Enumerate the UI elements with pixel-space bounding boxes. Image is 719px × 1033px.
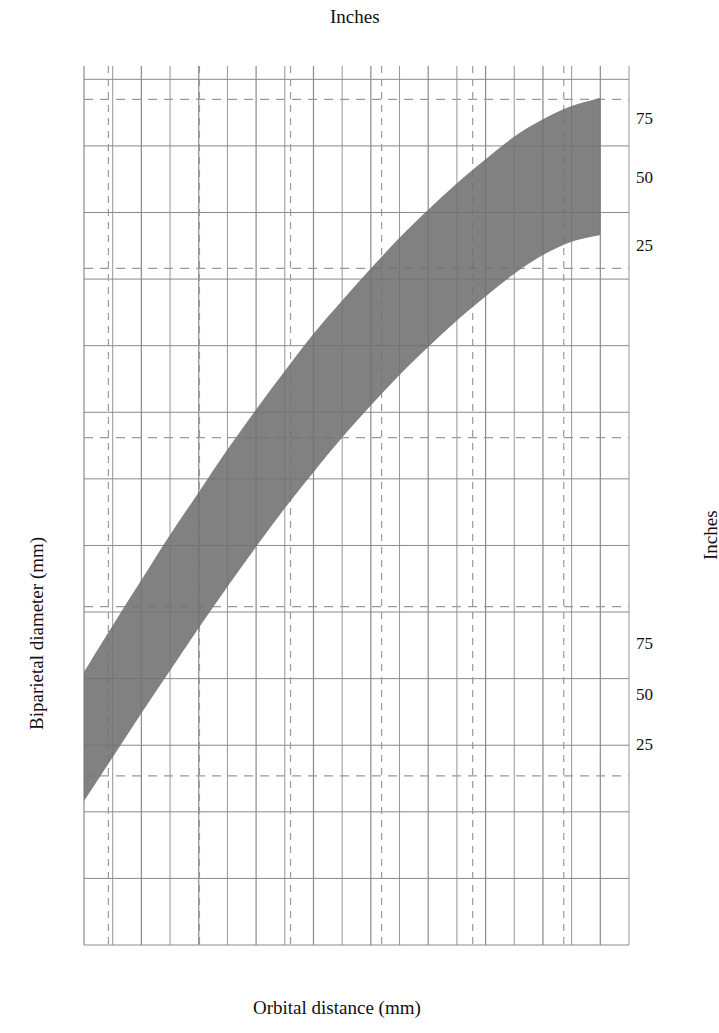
plot-canvas [0, 0, 719, 1033]
chart-figure: Inches Orbital distance (mm) Biparietal … [0, 0, 719, 1033]
